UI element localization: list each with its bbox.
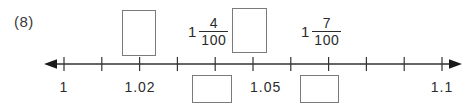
- answer-box-above-1[interactable]: [122, 10, 156, 56]
- fraction-4-100: 4 100: [199, 16, 228, 47]
- worksheet-number-line-problem: (8) 1 1.02 1.05 1.1 1 4: [0, 0, 472, 107]
- tick-label-1-1: 1.1: [431, 79, 453, 95]
- mixed-number-1-4-100: 1 4 100: [188, 16, 228, 47]
- fraction-denominator: 100: [312, 32, 341, 47]
- tick-label-1: 1: [60, 79, 69, 95]
- fraction-numerator: 4: [208, 16, 220, 31]
- tick-label-1-02: 1.02: [124, 79, 155, 95]
- mixed-number-whole-part: 1: [301, 23, 310, 40]
- answer-box-below-1[interactable]: [192, 75, 232, 103]
- left-arrow-icon: [44, 59, 57, 69]
- answer-box-below-2[interactable]: [300, 75, 339, 103]
- fraction-7-100: 7 100: [312, 16, 341, 47]
- tick-label-1-05: 1.05: [250, 79, 281, 95]
- answer-box-above-2[interactable]: [232, 8, 267, 53]
- mixed-number-whole-part: 1: [188, 23, 197, 40]
- fraction-numerator: 7: [321, 16, 333, 31]
- mixed-number-1-7-100: 1 7 100: [301, 16, 341, 47]
- fraction-denominator: 100: [199, 32, 228, 47]
- right-arrow-icon: [449, 59, 462, 69]
